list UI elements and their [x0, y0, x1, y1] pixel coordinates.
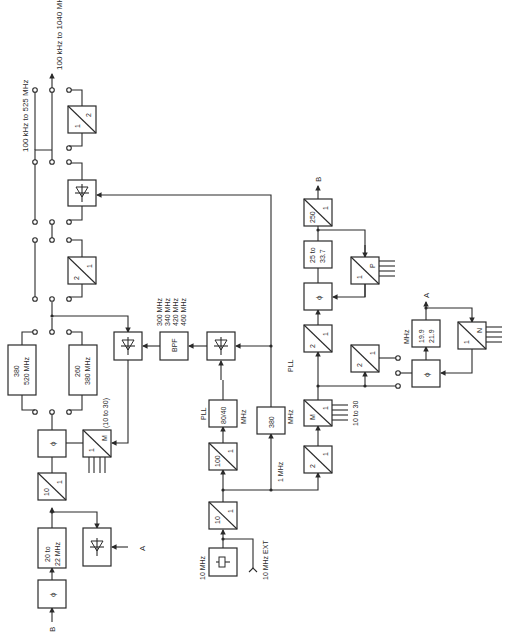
output-label-525: 100 kHz to 525 MHz: [21, 80, 30, 152]
output-label-1040: 100 kHz to 1040 MHz: [55, 0, 64, 70]
svg-text:1: 1: [356, 275, 363, 279]
divider-10-upper: 10 1: [38, 473, 66, 500]
vco-25-33-7: 25 to 33.7: [304, 241, 332, 268]
connector-b-input: B: [48, 608, 57, 632]
svg-text:MHz: MHz: [287, 409, 294, 424]
mixer-pll: [207, 332, 235, 360]
svg-text:PLL: PLL: [287, 359, 294, 372]
divider-m-upper: 1 M: [83, 430, 111, 473]
ref-1mhz-label: 1 MHz: [277, 461, 284, 482]
svg-text:ϕ: ϕ: [48, 592, 57, 597]
mixer-a: [83, 528, 111, 566]
connector-a-input: A: [112, 545, 147, 551]
svg-text:M: M: [309, 414, 316, 420]
divider-250: 250 1: [304, 199, 332, 226]
svg-text:A: A: [138, 545, 147, 551]
svg-text:260: 260: [74, 365, 81, 377]
svg-text:BPF: BPF: [171, 338, 178, 352]
svg-text:1: 1: [88, 448, 95, 452]
divider-2-mid: 2 1: [68, 257, 96, 284]
ext-ref-label: 10 MHz EXT: [262, 540, 269, 580]
svg-text:1: 1: [322, 452, 329, 456]
divm-low-range-label: 10 to 30: [352, 401, 359, 426]
svg-text:1: 1: [322, 406, 329, 410]
svg-text:10: 10: [214, 516, 221, 524]
synthesizer-diagram: B ϕ 20 to 22 MHz A 10 1 ϕ: [0, 0, 519, 634]
phase-detector-b: ϕ: [38, 580, 66, 608]
svg-text:2: 2: [309, 344, 316, 348]
svg-text:1: 1: [74, 124, 81, 128]
connector-a-output: A: [422, 292, 431, 298]
pll-80-40-mhz: 80/40 PLL MHz: [200, 400, 247, 427]
vco-20-22-mhz: 20 to 22 MHz: [38, 528, 66, 568]
band-pass-filter: BPF: [160, 332, 188, 360]
svg-text:25 to: 25 to: [309, 247, 316, 263]
divider-2-small: 2 1: [351, 345, 379, 372]
vco-19-9-21-9-mhz: 19.9 21.9 MHz: [403, 320, 440, 347]
svg-text:10: 10: [43, 488, 50, 496]
reference-oscillator-10mhz: 10 MHz: [199, 548, 237, 580]
svg-text:2: 2: [73, 276, 80, 280]
svg-text:380: 380: [13, 365, 20, 377]
connector-b-output: B: [314, 177, 323, 182]
svg-text:MHz: MHz: [240, 409, 247, 424]
svg-text:1: 1: [322, 206, 329, 210]
svg-text:340 MHz: 340 MHz: [164, 297, 171, 326]
svg-text:PLL: PLL: [200, 407, 207, 420]
svg-text:ϕ: ϕ: [48, 441, 57, 446]
phase-detector-right: ϕ: [304, 283, 332, 310]
svg-text:21.9: 21.9: [428, 329, 435, 343]
svg-text:M: M: [101, 435, 108, 441]
divider-100: 100 1: [209, 443, 237, 470]
svg-text:B: B: [48, 627, 57, 632]
svg-text:1: 1: [227, 509, 234, 513]
vco-260-380-mhz: 260 380 MHz: [69, 345, 97, 395]
divider-2-top: 1 2: [68, 106, 96, 133]
svg-text:ϕ: ϕ: [314, 295, 323, 300]
svg-text:1: 1: [369, 351, 376, 355]
svg-text:80/40: 80/40: [220, 406, 227, 424]
svg-text:N: N: [476, 328, 483, 333]
phase-detector-main: ϕ: [38, 430, 66, 457]
svg-text:1: 1: [56, 480, 63, 484]
svg-text:100: 100: [214, 455, 221, 467]
divider-10-ref: 10 1: [209, 502, 237, 529]
svg-text:10 MHz: 10 MHz: [199, 555, 206, 580]
svg-text:380 MHz: 380 MHz: [84, 356, 91, 385]
svg-text:MHz: MHz: [403, 329, 410, 344]
vco-380-520-mhz: 380 520 MHz: [8, 345, 36, 395]
bpf-frequencies: 300 MHz 340 MHz 420 MHz 460 MHz: [156, 297, 187, 326]
svg-text:2: 2: [356, 363, 363, 367]
svg-text:420 MHz: 420 MHz: [172, 297, 179, 326]
svg-text:380: 380: [268, 416, 275, 428]
svg-text:1: 1: [463, 340, 470, 344]
divider-2-right: 2 1: [304, 325, 332, 352]
svg-text:20 to: 20 to: [44, 546, 51, 562]
svg-text:33.7: 33.7: [319, 249, 326, 263]
svg-text:1: 1: [86, 264, 93, 268]
svg-text:ϕ: ϕ: [422, 372, 431, 377]
divider-n: 1 N: [458, 322, 502, 349]
svg-text:2: 2: [85, 113, 92, 117]
svg-text:22 MHz: 22 MHz: [54, 541, 61, 566]
svg-text:520 MHz: 520 MHz: [23, 356, 30, 385]
svg-text:P: P: [369, 263, 376, 268]
divider-m-low: M 1: [304, 400, 348, 426]
divm-range-label: (10 to 30): [102, 398, 110, 428]
pll-380-mhz: 380 MHz PLL: [257, 359, 294, 434]
svg-text:19.9: 19.9: [418, 329, 425, 343]
phase-detector-a: ϕ: [412, 360, 440, 387]
divider-p: 1 P: [351, 257, 395, 284]
divider-2-low: 2 1: [304, 446, 332, 473]
mixer-top: [68, 180, 96, 206]
svg-text:250: 250: [309, 211, 316, 223]
svg-text:1: 1: [322, 332, 329, 336]
svg-text:2: 2: [309, 464, 316, 468]
svg-text:460 MHz: 460 MHz: [180, 297, 187, 326]
mixer-bpf: [114, 332, 142, 360]
svg-text:1: 1: [227, 449, 234, 453]
svg-text:300 MHz: 300 MHz: [156, 297, 163, 326]
